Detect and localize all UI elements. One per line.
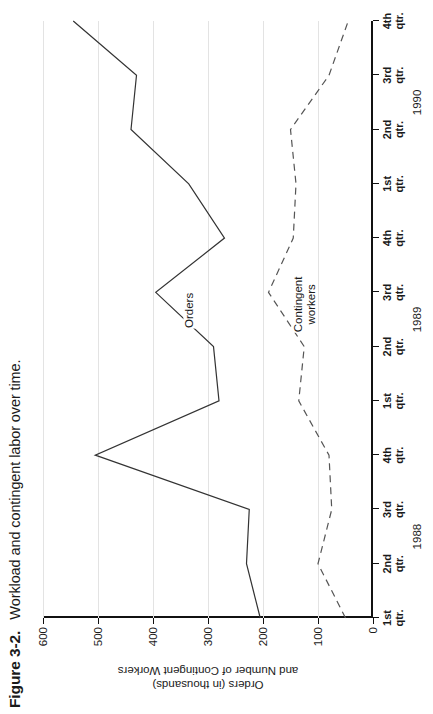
x-axis-tick bbox=[373, 291, 379, 292]
x-axis-tick-label: 1stqtr. bbox=[381, 392, 406, 409]
x-axis-tick-label: 1stqtr. bbox=[381, 175, 406, 192]
y-axis-tick-label: 300 bbox=[202, 627, 214, 646]
x-axis-tick-label: 2ndqtr. bbox=[381, 554, 406, 574]
y-axis-title: Orders (in thousands) and Number of Cont… bbox=[43, 663, 373, 692]
figure-caption: Figure 3-2. Workload and contingent labo… bbox=[6, 8, 30, 708]
x-axis-tick bbox=[373, 129, 379, 130]
x-axis-tick bbox=[373, 237, 379, 238]
x-axis-tick bbox=[373, 400, 379, 401]
y-axis-tick bbox=[208, 618, 209, 624]
x-axis-tick-label: 3rdqtr. bbox=[381, 67, 406, 84]
y-axis-tick-label: 400 bbox=[147, 627, 159, 646]
x-axis-tick bbox=[373, 346, 379, 347]
y-axis-tick bbox=[98, 618, 99, 624]
plot-area: 0100200300400500600 1stqtr.2ndqtr.3rdqtr… bbox=[43, 21, 373, 618]
y-axis-title-wrap: Orders (in thousands) and Number of Cont… bbox=[43, 691, 373, 692]
x-axis-tick-label: 2ndqtr. bbox=[381, 337, 406, 357]
y-axis-tick-label: 500 bbox=[92, 627, 104, 646]
x-axis-tick-label: 4thqtr. bbox=[381, 12, 406, 29]
x-axis-year-label: 1989 bbox=[411, 307, 423, 333]
y-axis-tick bbox=[43, 618, 44, 624]
chart-plot bbox=[43, 21, 373, 618]
y-axis-tick bbox=[373, 618, 374, 624]
y-axis-tick bbox=[153, 618, 154, 624]
x-axis-tick-label: 3rdqtr. bbox=[381, 284, 406, 301]
x-axis-tick bbox=[373, 508, 379, 509]
series-line-orders bbox=[73, 21, 260, 618]
figure-caption-text: Workload and contingent labor over time. bbox=[7, 360, 23, 620]
series-label-contingent-workers: Contingentworkers bbox=[291, 276, 317, 334]
x-axis-year-label: 1988 bbox=[411, 524, 423, 550]
x-axis-tick bbox=[373, 183, 379, 184]
x-axis-tick-label: 4thqtr. bbox=[381, 230, 406, 247]
x-axis-tick bbox=[373, 454, 379, 455]
x-axis-tick-label: 1stqtr. bbox=[381, 609, 406, 626]
rotated-page-frame: Figure 3-2. Workload and contingent labo… bbox=[0, 0, 433, 714]
x-axis-tick-label: 4thqtr. bbox=[381, 447, 406, 464]
figure-container: Figure 3-2. Workload and contingent labo… bbox=[0, 0, 433, 714]
figure-number: Figure 3-2. bbox=[6, 631, 23, 708]
x-axis-tick bbox=[373, 617, 379, 618]
y-axis-tick-label: 200 bbox=[257, 627, 269, 646]
x-axis-year-label: 1990 bbox=[411, 90, 423, 116]
y-axis-tick-label: 0 bbox=[367, 627, 379, 633]
y-axis-title-line2: and Number of Contingent Workers bbox=[43, 663, 373, 677]
x-axis-tick bbox=[373, 74, 379, 75]
y-axis-tick-label: 600 bbox=[37, 627, 49, 646]
x-axis-tick-label: 2ndqtr. bbox=[381, 120, 406, 140]
x-axis-tick bbox=[373, 20, 379, 21]
y-axis-tick bbox=[263, 618, 264, 624]
y-axis-tick-label: 100 bbox=[312, 627, 324, 646]
y-axis-title-line1: Orders (in thousands) bbox=[43, 678, 373, 692]
y-axis-tick bbox=[318, 618, 319, 624]
series-label-orders: Orders bbox=[183, 292, 196, 329]
x-axis-tick-label: 3rdqtr. bbox=[381, 501, 406, 518]
x-axis-tick bbox=[373, 563, 379, 564]
